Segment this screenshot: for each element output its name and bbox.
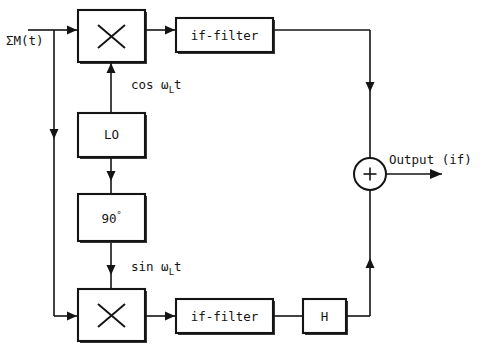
phase-shifter-number: 90 (101, 210, 116, 225)
arrowhead-into-mixer-bottom (67, 312, 77, 321)
block-diagram-canvas: if-filter LO 90° if-filter H ΣM(t) cos ω… (0, 0, 484, 351)
arrowhead-into-mixer-bottom-lo (107, 265, 116, 275)
arrowhead-into-filter-top (165, 26, 175, 35)
arrowhead-right-rail-up (366, 258, 375, 268)
phase-shifter-degree-sign: ° (116, 209, 121, 219)
hilbert-label: H (321, 309, 329, 324)
arrowhead-input-branch-down (50, 129, 59, 139)
arrowhead-output (430, 169, 442, 179)
sin-fn: sin (131, 259, 154, 274)
sin-signal-label: sin ωLt (131, 259, 182, 277)
arrowhead-into-phase-shifter (107, 171, 116, 181)
arrowhead-into-mixer-top (67, 26, 77, 35)
arrowhead-into-mixer-top-lo (107, 63, 116, 73)
block-diagram-svg: if-filter LO 90° if-filter H ΣM(t) cos ω… (0, 0, 484, 351)
arrowhead-right-rail-down (366, 82, 375, 92)
output-label: Output (if) (389, 152, 472, 167)
sin-var: t (174, 259, 182, 274)
cos-fn: cos (131, 77, 154, 92)
cos-var: t (174, 77, 182, 92)
cos-signal-label: cos ωLt (131, 77, 182, 95)
filter-bottom-label: if-filter (191, 309, 259, 324)
input-label: ΣM(t) (6, 33, 44, 48)
lo-label: LO (104, 127, 119, 142)
arrowhead-into-filter-bottom (165, 312, 175, 321)
filter-top-label: if-filter (191, 28, 259, 43)
